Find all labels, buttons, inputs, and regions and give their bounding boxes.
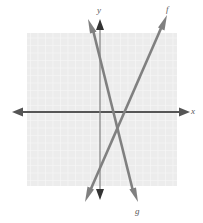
line-f-arrow-bottom bbox=[85, 187, 94, 202]
line-g-arrow-bottom bbox=[129, 188, 138, 202]
x-axis-arrow-right bbox=[179, 108, 190, 117]
line-g-label: g bbox=[135, 207, 140, 216]
y-axis-arrow-top bbox=[96, 19, 104, 30]
line-f-arrow-top bbox=[158, 15, 167, 30]
line-f-label: f bbox=[166, 5, 169, 14]
x-axis-label: x bbox=[191, 107, 195, 116]
line-g-arrow-top bbox=[88, 19, 97, 33]
y-axis-label: y bbox=[97, 6, 101, 15]
x-axis-arrow-left bbox=[12, 108, 23, 117]
y-axis-arrow-bottom bbox=[96, 189, 104, 200]
coordinate-plane-svg bbox=[0, 0, 203, 223]
graph-figure: x y f g bbox=[0, 0, 203, 223]
